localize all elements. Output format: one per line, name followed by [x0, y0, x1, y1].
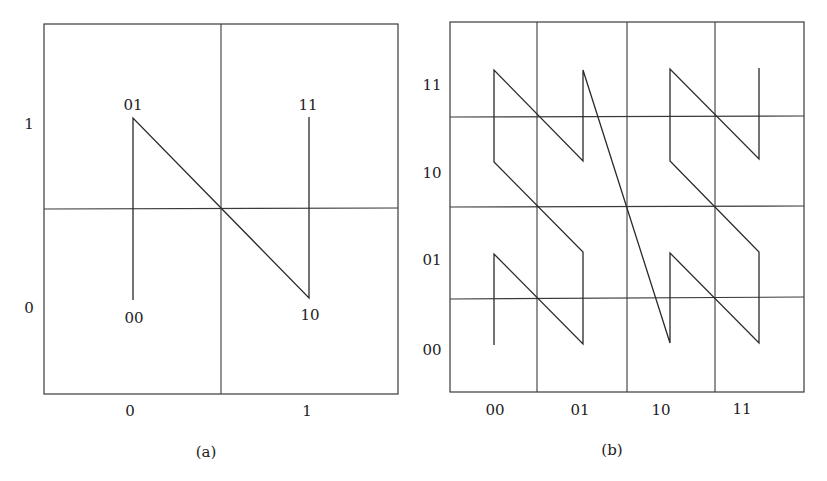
point-label-00: 00: [124, 309, 143, 327]
panel-b-caption: (b): [601, 441, 622, 459]
x-tick-1: 1: [302, 402, 312, 420]
x-tick-10: 10: [651, 401, 670, 419]
y-tick-1: 1: [24, 115, 34, 133]
point-label-11: 11: [298, 96, 317, 114]
z-order-curve-figure: 01 11 00 10 1 0 0 1 (a) 11 10 01 00 00 0…: [0, 0, 827, 481]
y-tick-0: 0: [24, 299, 34, 317]
x-tick-0: 0: [125, 402, 135, 420]
point-label-01: 01: [123, 96, 142, 114]
x-tick-00: 00: [485, 401, 504, 419]
y-tick-10: 10: [422, 164, 441, 182]
point-label-10: 10: [300, 306, 319, 324]
x-tick-11: 11: [732, 400, 751, 418]
y-tick-00: 00: [422, 341, 441, 359]
panel-b-horizontal-divider-1: [450, 116, 804, 117]
y-tick-01: 01: [422, 251, 441, 269]
x-tick-01: 01: [570, 401, 589, 419]
y-tick-11: 11: [422, 76, 441, 94]
panel-a-caption: (a): [196, 443, 217, 461]
panel-b: 11 10 01 00 00 01 10 11 (b): [422, 22, 804, 459]
panel-a: 01 11 00 10 1 0 0 1 (a): [24, 24, 398, 461]
